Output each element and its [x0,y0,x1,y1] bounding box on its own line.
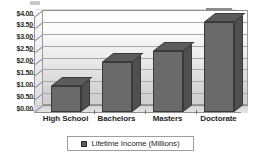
x-axis-category-label: High School [37,114,95,124]
bar-side-face [183,44,192,112]
legend-label: Lifetime Income (Millions) [91,139,179,148]
bar-front-face [102,62,132,112]
bar-front-face [204,22,234,112]
y-axis-tick-mark [29,27,34,28]
y-axis-labels: $0.00$0.50$1.00$1.50$2.00$2.50$3.00$3.50… [0,8,33,112]
bar-front-face [51,86,81,112]
bar [153,51,183,112]
y-axis-tick-mark [29,86,34,87]
gridline [43,10,247,11]
x-axis-category-label: Doctorate [190,114,248,124]
x-axis-labels: High SchoolBachelorsMastersDoctorate [34,114,249,126]
bar-side-face [234,15,243,112]
plot-area [34,10,248,112]
chart-legend: Lifetime Income (Millions) [67,136,194,151]
bar [51,86,81,112]
y-axis-tick-mark [29,63,34,64]
x-axis-category-label: Masters [139,114,197,124]
y-axis-tick-mark [29,74,34,75]
bar-chart: $0.00$0.50$1.00$1.50$2.00$2.50$3.00$3.50… [0,0,259,158]
y-axis-tick-mark [29,98,34,99]
top-edge-artifact [30,1,40,5]
bar [204,22,234,112]
y-axis-tick-mark [29,39,34,40]
y-axis-tick-mark [29,110,34,111]
chart-floor-front-edge [34,112,241,113]
bar [102,62,132,112]
bar-front-face [153,51,183,112]
legend-swatch-icon [81,141,87,147]
bar-side-face [132,55,141,112]
y-axis-tick-mark [29,51,34,52]
x-axis-category-label: Bachelors [88,114,146,124]
y-axis-tick-mark [29,15,34,16]
